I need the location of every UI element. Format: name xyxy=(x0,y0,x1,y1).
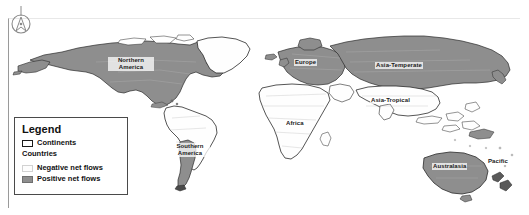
map-label-southern-america: Southern America xyxy=(170,143,210,157)
legend-swatch-continents xyxy=(22,140,33,147)
map-label-northern-america: Northern America xyxy=(108,57,154,71)
legend-title: Legend xyxy=(22,123,121,135)
legend-item-positive: Positive net flows xyxy=(22,174,121,184)
legend-swatch-negative xyxy=(22,165,33,172)
map-label-europe: Europe xyxy=(294,59,317,66)
legend-label-positive: Positive net flows xyxy=(37,174,100,184)
map-label-asia-temperate: Asia-Temperate xyxy=(375,62,423,69)
map-legend: Legend Continents Countries Negative net… xyxy=(14,117,128,195)
legend-label-negative: Negative net flows xyxy=(37,163,103,173)
legend-label-continents: Continents xyxy=(37,138,76,148)
legend-swatch-positive xyxy=(22,176,33,183)
map-label-asia-tropical: Asia-Tropical xyxy=(370,97,411,104)
map-label-africa: Africa xyxy=(285,120,305,127)
map-label-australasia: Australasia xyxy=(432,163,467,170)
legend-item-negative: Negative net flows xyxy=(22,163,121,173)
legend-item-continents: Continents xyxy=(22,138,121,148)
legend-label-countries: Countries xyxy=(22,149,121,159)
north-arrow-compass-icon xyxy=(8,4,34,36)
map-label-pacific: Pacific xyxy=(487,158,509,165)
world-map-figure: Northern America Southern America Europe… xyxy=(0,0,529,215)
